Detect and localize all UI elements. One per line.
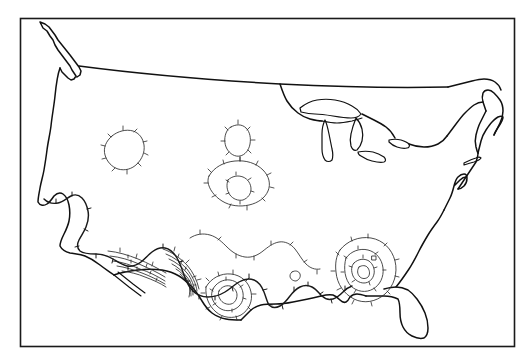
contour-map-figure — [0, 0, 530, 364]
map-canvas — [0, 0, 530, 364]
figure-background — [0, 0, 530, 364]
